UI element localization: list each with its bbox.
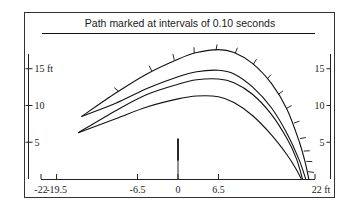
left-y-tick-label: 10 xyxy=(35,100,45,111)
trajectory-path-3 xyxy=(78,79,302,179)
trajectory-path-2 xyxy=(81,70,305,179)
x-tick-label: 6.5 xyxy=(212,184,225,195)
time-mark xyxy=(267,75,271,79)
trajectory-curves xyxy=(78,50,308,179)
trajectory-path-4 xyxy=(78,96,301,179)
chart-frame xyxy=(25,13,335,198)
time-mark xyxy=(235,48,237,54)
right-y-tick-label: 15 xyxy=(315,63,325,74)
trajectory-path-1 xyxy=(81,50,308,179)
time-mark xyxy=(149,66,152,71)
time-mark xyxy=(308,172,314,173)
time-mark xyxy=(278,91,283,95)
x-tick-label: -19.5 xyxy=(46,184,67,195)
x-tick-label: 22 ft xyxy=(312,184,331,195)
time-mark xyxy=(286,106,291,109)
time-mark xyxy=(300,138,306,139)
x-tick-label: -6.5 xyxy=(130,184,146,195)
time-interval-marks xyxy=(114,44,314,172)
time-mark xyxy=(253,59,256,64)
left-y-tick-label: 5 xyxy=(35,137,40,148)
left-y-tick-label: 15 ft xyxy=(35,63,54,74)
chart-title: Path marked at intervals of 0.10 seconds xyxy=(85,17,275,29)
right-y-tick-label: 5 xyxy=(320,137,325,148)
trajectory-chart: Path marked at intervals of 0.10 seconds… xyxy=(0,0,354,206)
time-mark xyxy=(294,121,300,123)
x-tick-label: 0 xyxy=(176,184,181,195)
time-mark xyxy=(114,88,119,92)
right-y-tick-label: 10 xyxy=(315,100,325,111)
time-mark xyxy=(173,54,174,60)
